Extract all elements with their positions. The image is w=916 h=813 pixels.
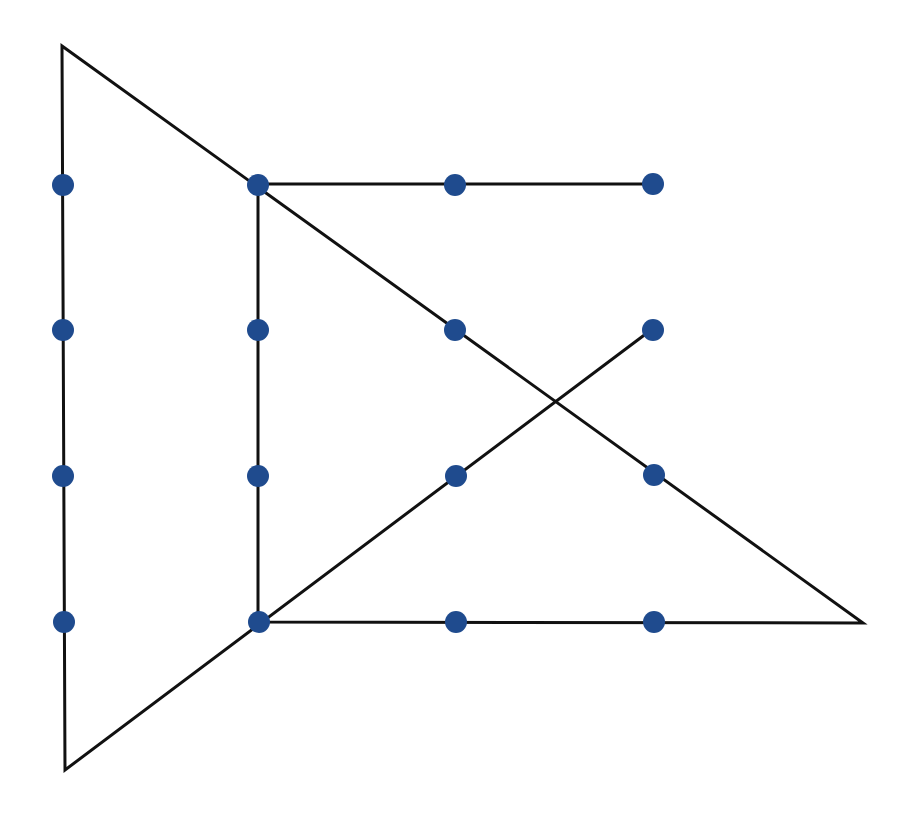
connecting-line <box>62 46 863 770</box>
grid-dot <box>642 173 664 195</box>
grid-dot <box>642 319 664 341</box>
grid-dot <box>445 611 467 633</box>
dot-puzzle-diagram <box>0 0 916 813</box>
grid-dot <box>247 465 269 487</box>
grid-dot <box>643 464 665 486</box>
grid-dot <box>444 319 466 341</box>
solution-path <box>62 46 863 770</box>
grid-dot <box>247 174 269 196</box>
grid-dot <box>444 174 466 196</box>
grid-dot <box>53 611 75 633</box>
grid-dot <box>52 465 74 487</box>
dot-grid <box>52 173 665 633</box>
grid-dot <box>52 174 74 196</box>
grid-dot <box>247 319 269 341</box>
grid-dot <box>248 611 270 633</box>
grid-dot <box>643 611 665 633</box>
grid-dot <box>445 465 467 487</box>
grid-dot <box>52 319 74 341</box>
